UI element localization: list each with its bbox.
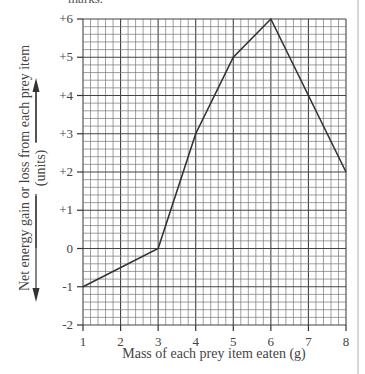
y-tick-label: -1 — [62, 279, 73, 294]
y-tick-label: +6 — [59, 11, 73, 26]
x-tick-label: 1 — [80, 334, 87, 349]
x-tick-label: 8 — [343, 334, 350, 349]
line-chart: 12345678 +6+5+4+3+2+10-1-2 Mass of each … — [0, 0, 365, 374]
data-line — [83, 19, 346, 287]
graph-paper-grid — [83, 19, 346, 325]
y-tick-label: -2 — [62, 317, 73, 332]
x-tick-label: 7 — [305, 334, 312, 349]
y-tick-label: +5 — [59, 49, 73, 64]
y-tick-label: +2 — [59, 164, 73, 179]
y-tick-label: +4 — [59, 88, 73, 103]
y-tick-label: 0 — [67, 241, 74, 256]
axis-ticks — [77, 19, 346, 331]
up-arrow-icon — [33, 78, 40, 92]
down-arrow-icon — [33, 288, 40, 302]
y-tick-label: +1 — [59, 202, 73, 217]
y-axis-title: Net energy gain or loss from each prey i… — [17, 45, 32, 291]
y-tick-label: +3 — [59, 126, 73, 141]
y-axis-units: (units) — [33, 149, 49, 186]
y-axis-title-group: Net energy gain or loss from each prey i… — [17, 45, 49, 291]
x-axis-title: Mass of each prey item eaten (g) — [122, 346, 306, 362]
y-axis-tick-labels: +6+5+4+3+2+10-1-2 — [59, 11, 73, 332]
